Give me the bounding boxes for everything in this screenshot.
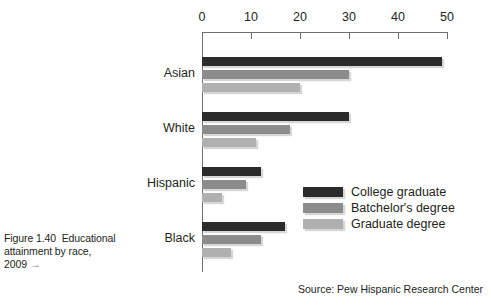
bar-black-series-0 bbox=[202, 222, 285, 231]
category-label-white: White bbox=[163, 121, 195, 135]
bar-asian-series-1 bbox=[202, 70, 349, 79]
value-axis-tick bbox=[349, 32, 350, 39]
value-axis-tick-label: 0 bbox=[199, 10, 206, 24]
arrow-icon: → bbox=[30, 259, 41, 270]
bar-hispanic-series-1 bbox=[202, 180, 246, 189]
value-axis-tick bbox=[447, 32, 448, 39]
category-label-hispanic: Hispanic bbox=[147, 176, 195, 190]
bar-white-series-2 bbox=[202, 138, 256, 147]
legend-label: Batchelor's degree bbox=[351, 201, 455, 215]
legend-item: Graduate degree bbox=[303, 216, 455, 231]
legend-label: Graduate degree bbox=[351, 217, 446, 231]
bar-white-series-0 bbox=[202, 112, 349, 121]
value-axis-tick bbox=[202, 32, 203, 39]
bar-hispanic-series-2 bbox=[202, 193, 222, 202]
legend-label: College graduate bbox=[351, 185, 446, 199]
bar-asian-series-2 bbox=[202, 83, 300, 92]
source-note: Source: Pew Hispanic Research Center bbox=[298, 283, 483, 295]
legend-swatch-icon bbox=[303, 187, 343, 197]
bar-white-series-1 bbox=[202, 125, 290, 134]
value-axis-tick bbox=[251, 32, 252, 39]
legend-swatch-icon bbox=[303, 203, 343, 213]
chart-legend: College graduateBatchelor's degreeGradua… bbox=[303, 184, 455, 232]
bar-black-series-1 bbox=[202, 235, 261, 244]
value-axis-tick-label: 50 bbox=[440, 10, 454, 24]
bar-asian-series-0 bbox=[202, 57, 442, 66]
figure-caption-year: 2009 bbox=[4, 258, 27, 270]
legend-item: Batchelor's degree bbox=[303, 200, 455, 215]
category-label-asian: Asian bbox=[164, 66, 195, 80]
value-axis-tick bbox=[398, 32, 399, 39]
bar-black-series-2 bbox=[202, 248, 231, 257]
figure-caption-line-3: 2009→ bbox=[4, 258, 150, 271]
value-axis-tick-label: 40 bbox=[391, 10, 405, 24]
bar-hispanic-series-0 bbox=[202, 167, 261, 176]
value-axis-tick-label: 10 bbox=[244, 10, 258, 24]
category-label-black: Black bbox=[164, 231, 195, 245]
figure-caption: Figure 1.40 Educational attainment by ra… bbox=[4, 232, 150, 272]
value-axis-line bbox=[202, 32, 448, 33]
legend-swatch-icon bbox=[303, 219, 343, 229]
value-axis-tick-label: 20 bbox=[293, 10, 307, 24]
legend-item: College graduate bbox=[303, 184, 455, 199]
value-axis-tick-label: 30 bbox=[342, 10, 356, 24]
figure-caption-line-2: attainment by race, bbox=[4, 245, 150, 258]
figure-caption-line-1: Figure 1.40 Educational bbox=[4, 232, 150, 245]
value-axis-tick bbox=[300, 32, 301, 39]
